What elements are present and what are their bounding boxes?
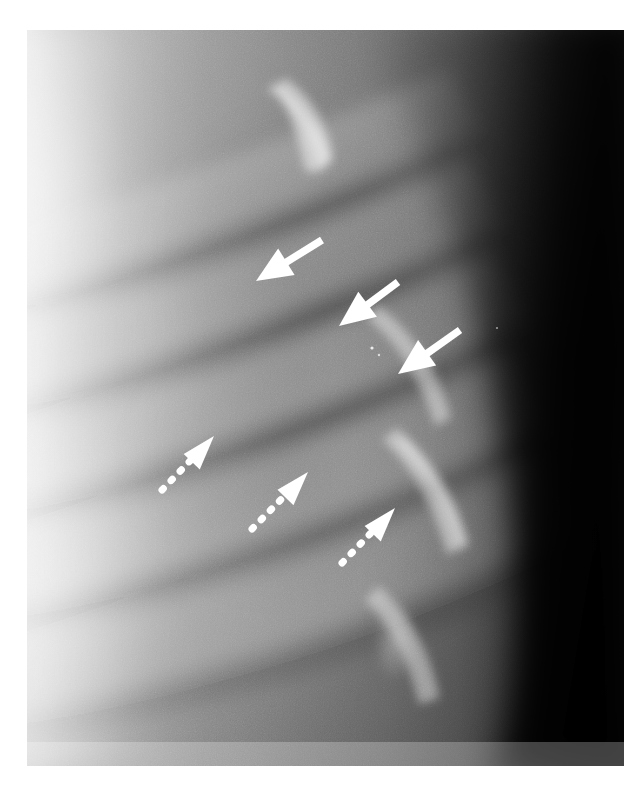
radiograph-canvas — [27, 30, 624, 766]
film-grain — [27, 30, 624, 766]
page-root: Grayscale radiograph showing obliquely o… — [0, 0, 642, 785]
film-bottom-edge — [27, 742, 624, 766]
xray-image — [27, 30, 624, 766]
